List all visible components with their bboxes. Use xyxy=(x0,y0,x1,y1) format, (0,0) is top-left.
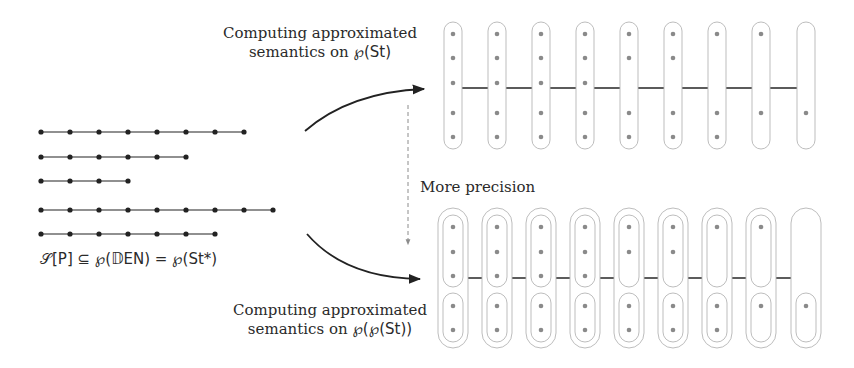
abstract-state-column xyxy=(708,22,726,149)
state-dot xyxy=(183,231,188,236)
state-dot xyxy=(671,250,676,255)
state-dot xyxy=(241,207,246,212)
state-dot xyxy=(241,129,246,134)
state-dot xyxy=(495,250,500,255)
state-dot xyxy=(451,32,456,37)
state-dot xyxy=(495,135,500,140)
trace-semantics-formula: 𝒮[P] ⊆ ℘(𝔻EN) = ℘(St*) xyxy=(40,250,217,269)
state-dot xyxy=(583,81,588,86)
state-dot xyxy=(759,111,764,116)
state-dot xyxy=(804,304,809,309)
state-dot xyxy=(67,207,72,212)
state-dot xyxy=(96,231,101,236)
bottom-caption-line2: semantics on xyxy=(248,320,353,338)
powerset-column xyxy=(570,208,600,348)
state-dot xyxy=(759,32,764,37)
state-dot xyxy=(38,231,43,236)
state-dot xyxy=(38,178,43,183)
state-dot xyxy=(539,328,544,333)
bottom-caption-line1: Computing approximated xyxy=(200,301,460,320)
state-dot xyxy=(212,129,217,134)
state-dot xyxy=(539,32,544,37)
state-dot xyxy=(495,56,500,61)
trace xyxy=(38,129,246,134)
abstract-state-column xyxy=(576,22,594,149)
state-dot xyxy=(539,250,544,255)
trace xyxy=(38,154,188,159)
state-dot xyxy=(451,56,456,61)
state-dot xyxy=(125,129,130,134)
state-dot xyxy=(67,231,72,236)
state-dot xyxy=(451,250,456,255)
state-dot xyxy=(212,231,217,236)
state-dot xyxy=(38,129,43,134)
state-dot xyxy=(183,154,188,159)
abstract-state-column xyxy=(444,22,462,149)
state-dot xyxy=(451,111,456,116)
state-dot xyxy=(495,274,500,279)
state-dot xyxy=(67,178,72,183)
top-abstraction-caption: Computing approximated semantics on ℘(St… xyxy=(200,24,440,62)
state-dot xyxy=(154,154,159,159)
state-dot xyxy=(96,129,101,134)
state-dot xyxy=(583,56,588,61)
state-dot xyxy=(715,32,720,37)
abstract-state-column xyxy=(797,22,815,149)
state-dot xyxy=(627,250,632,255)
concrete-traces xyxy=(38,129,275,236)
state-dot xyxy=(38,207,43,212)
powerset-column xyxy=(614,208,644,348)
state-dot xyxy=(583,32,588,37)
state-dot xyxy=(451,225,456,230)
state-dot xyxy=(671,56,676,61)
state-dot xyxy=(125,154,130,159)
abstract-state-column xyxy=(620,22,638,149)
state-dot xyxy=(183,207,188,212)
state-dot xyxy=(125,231,130,236)
state-dot xyxy=(539,81,544,86)
powerset-column xyxy=(791,208,821,348)
state-dot xyxy=(627,328,632,333)
powerset-column xyxy=(482,208,512,348)
arrow-to-state-abstraction xyxy=(305,89,424,131)
state-dot xyxy=(539,111,544,116)
state-dot xyxy=(583,250,588,255)
state-abstraction-columns xyxy=(444,22,815,149)
state-dot xyxy=(451,81,456,86)
state-dot xyxy=(627,111,632,116)
state-dot xyxy=(451,135,456,140)
state-dot xyxy=(627,56,632,61)
state-dot xyxy=(495,81,500,86)
state-dot xyxy=(96,154,101,159)
state-dot xyxy=(539,135,544,140)
trace xyxy=(38,178,130,183)
state-dot xyxy=(583,328,588,333)
state-dot xyxy=(627,225,632,230)
state-dot xyxy=(539,304,544,309)
state-dot xyxy=(270,207,275,212)
state-dot xyxy=(451,274,456,279)
state-dot xyxy=(183,129,188,134)
state-dot xyxy=(715,135,720,140)
powerset-column xyxy=(658,208,688,348)
more-precision-label: More precision xyxy=(420,178,535,197)
state-dot xyxy=(804,111,809,116)
state-dot xyxy=(495,304,500,309)
state-dot xyxy=(583,304,588,309)
state-dot xyxy=(715,304,720,309)
state-dot xyxy=(627,135,632,140)
state-dot xyxy=(583,111,588,116)
state-dot xyxy=(495,225,500,230)
state-dot xyxy=(539,56,544,61)
abstract-state-column xyxy=(664,22,682,149)
state-dot xyxy=(583,225,588,230)
state-dot xyxy=(759,304,764,309)
state-dot xyxy=(627,304,632,309)
state-dot xyxy=(539,274,544,279)
state-dot xyxy=(671,225,676,230)
state-dot xyxy=(96,207,101,212)
state-dot xyxy=(96,178,101,183)
state-dot xyxy=(67,154,72,159)
powerset-abstraction-columns xyxy=(438,208,821,348)
powerset-column xyxy=(526,208,556,348)
